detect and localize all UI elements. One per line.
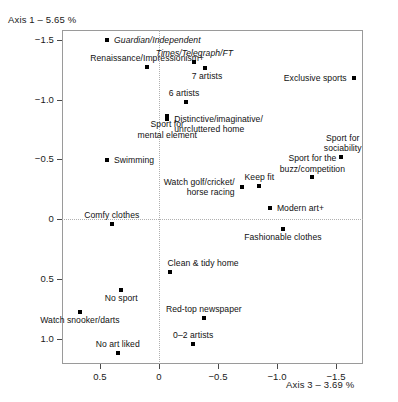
y-tick-label: 1.0: [8, 333, 54, 344]
data-point-label: Keep fit: [245, 172, 275, 182]
data-point[interactable]: [145, 65, 149, 69]
data-point[interactable]: [165, 117, 169, 121]
y-tick: [57, 40, 62, 41]
data-point-label: Swimming: [114, 155, 154, 165]
x-tick-label: −1.5: [311, 371, 361, 382]
data-point[interactable]: [105, 158, 109, 162]
x-tick-label: 0: [134, 371, 184, 382]
data-point-label: Distinctive/imaginative/ unrcluttered ho…: [174, 114, 263, 135]
data-point-label: No sport: [105, 293, 138, 303]
data-point[interactable]: [257, 184, 261, 188]
data-point[interactable]: [281, 227, 285, 231]
data-point-label: No art liked: [96, 339, 140, 349]
data-point-label: Times/Telegraph/FT: [156, 48, 233, 58]
x-tick-label: −1.0: [252, 371, 302, 382]
data-point-label: Watch golf/cricket/ horse racing: [164, 177, 235, 198]
data-point-label: Red-top newspaper: [166, 304, 242, 314]
data-point[interactable]: [268, 206, 272, 210]
data-point[interactable]: [110, 222, 114, 226]
data-point[interactable]: [78, 310, 82, 314]
data-point-label: Comfy clothes: [84, 210, 139, 220]
data-point-label: 6 artists: [169, 88, 200, 98]
data-point-label: Modern art+: [277, 203, 324, 213]
data-point[interactable]: [184, 100, 188, 104]
data-point[interactable]: [119, 288, 123, 292]
data-point-label: Clean & tidy home: [168, 258, 239, 268]
data-point-label: Fashionable clothes: [244, 232, 321, 242]
data-point[interactable]: [168, 270, 172, 274]
y-tick-label: −1.0: [8, 94, 54, 105]
y-axis-title: Axis 1 – 5.65 %: [8, 14, 76, 25]
x-tick-label: 0.5: [75, 371, 125, 382]
data-point[interactable]: [192, 60, 196, 64]
data-point[interactable]: [191, 342, 195, 346]
y-tick-label: 0.5: [8, 273, 54, 284]
y-tick-label: −1.5: [8, 34, 54, 45]
x-tick: [336, 364, 337, 369]
data-point-label: Sport for the buzz/competition: [280, 153, 345, 174]
data-point[interactable]: [105, 38, 109, 42]
data-point-label: Guardian/Independent: [114, 35, 201, 45]
x-tick-label: −0.5: [193, 371, 243, 382]
y-tick-label: 0: [8, 213, 54, 224]
y-tick: [57, 159, 62, 160]
data-point[interactable]: [116, 351, 120, 355]
x-tick: [100, 364, 101, 369]
y-tick: [57, 219, 62, 220]
x-tick: [277, 364, 278, 369]
y-tick: [57, 279, 62, 280]
x-tick: [218, 364, 219, 369]
data-point[interactable]: [240, 185, 244, 189]
y-tick: [57, 339, 62, 340]
data-point-label: Watch snooker/darts: [40, 315, 119, 325]
data-point[interactable]: [310, 175, 314, 179]
data-point-label: 0–2 artists: [173, 330, 213, 340]
y-tick-label: −0.5: [8, 153, 54, 164]
y-tick: [57, 100, 62, 101]
data-point-label: Sport for sociability: [324, 133, 362, 154]
data-point[interactable]: [352, 76, 356, 80]
chart-canvas: Axis 1 – 5.65 % Axis 3 – 3.69 % −1.5−1.0…: [0, 0, 398, 402]
x-tick: [159, 364, 160, 369]
data-point-label: Exclusive sports: [284, 73, 347, 83]
data-point[interactable]: [202, 316, 206, 320]
zero-line-vertical: [159, 30, 160, 364]
data-point[interactable]: [203, 66, 207, 70]
data-point-label: 7 artists: [192, 71, 223, 81]
